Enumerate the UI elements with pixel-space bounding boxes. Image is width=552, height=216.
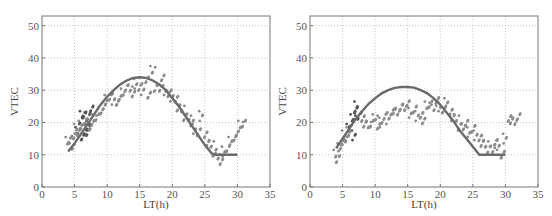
chart-left: 0510152025303501020304050LT(h)VTEC [0, 0, 276, 216]
x-tick-label: 5 [72, 188, 78, 200]
x-tick-label: 35 [533, 188, 545, 200]
x-tick-label: 35 [265, 188, 277, 200]
y-tick-label: 30 [28, 84, 40, 96]
y-tick-label: 30 [296, 84, 308, 96]
vtec-plot-left: 0510152025303501020304050LT(h)VTEC [0, 0, 276, 216]
x-axis-label: LT(h) [411, 198, 437, 211]
x-tick-label: 30 [232, 188, 244, 200]
y-tick-label: 50 [296, 20, 308, 32]
y-tick-label: 40 [296, 52, 308, 64]
y-tick-label: 10 [28, 149, 40, 161]
x-tick-label: 5 [340, 188, 346, 200]
y-tick-label: 0 [302, 181, 308, 193]
y-axis-label: VTEC [8, 87, 20, 116]
x-tick-label: 0 [39, 188, 45, 200]
x-tick-label: 10 [370, 188, 382, 200]
y-axis-label: VTEC [276, 87, 288, 116]
x-tick-label: 30 [500, 188, 512, 200]
scatter-observed-light- [64, 65, 247, 167]
plot-frame [42, 16, 270, 187]
model-curve-line [68, 77, 237, 154]
vtec-plot-right: 0510152025303501020304050LT(h)VTEC [276, 0, 552, 216]
x-tick-label: 25 [199, 188, 211, 200]
x-tick-label: 25 [467, 188, 479, 200]
x-tick-label: 10 [102, 188, 114, 200]
y-tick-label: 20 [28, 116, 40, 128]
y-tick-label: 20 [296, 116, 308, 128]
chart-right: 0510152025303501020304050LT(h)VTEC [276, 0, 552, 216]
x-axis-label: LT(h) [143, 198, 169, 211]
y-tick-label: 0 [34, 181, 40, 193]
x-tick-label: 0 [307, 188, 313, 200]
y-tick-label: 50 [28, 20, 40, 32]
y-tick-label: 10 [296, 149, 308, 161]
y-tick-label: 40 [28, 52, 40, 64]
